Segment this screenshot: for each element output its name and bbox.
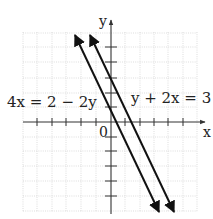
y-axis-label: y	[98, 13, 107, 29]
origin-label: 0	[99, 124, 108, 140]
equation-label-1: 4x = 2 − 2y	[7, 93, 97, 111]
equation-label-2: y + 2x = 3	[130, 89, 211, 107]
graph: y x 0 4x = 2 − 2y y + 2x = 3	[0, 0, 213, 219]
x-axis-label: x	[203, 124, 211, 140]
